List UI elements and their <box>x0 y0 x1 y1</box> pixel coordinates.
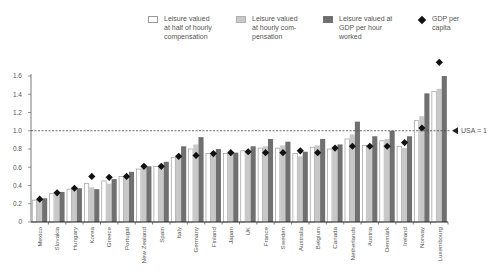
bar <box>263 146 268 222</box>
bar <box>241 151 245 222</box>
bar <box>206 154 210 222</box>
bar <box>285 142 290 222</box>
x-category-label: Luxembourg <box>436 226 443 261</box>
y-tick-label: 0.6 <box>13 164 22 171</box>
bar <box>432 92 436 222</box>
bar <box>415 121 419 222</box>
x-category-label: Italy <box>175 226 182 238</box>
bar <box>315 145 320 222</box>
bar <box>337 144 342 222</box>
bar <box>320 139 325 222</box>
x-category-label: Greece <box>105 226 112 247</box>
bar <box>345 139 349 222</box>
bar <box>164 162 169 222</box>
bar <box>50 194 54 222</box>
bar <box>54 195 59 222</box>
bar <box>424 93 429 222</box>
bar <box>397 146 401 222</box>
x-category-label: Ireland <box>401 226 408 245</box>
bar <box>189 149 193 222</box>
bar <box>380 141 384 222</box>
bar <box>124 175 129 222</box>
bar <box>223 154 227 222</box>
bar <box>141 167 146 222</box>
bar <box>72 190 77 222</box>
bar <box>211 152 216 222</box>
bar-series <box>32 76 447 222</box>
x-category-label: Belgium <box>314 227 321 249</box>
x-category-label: Korea <box>88 226 95 243</box>
x-category-label: Australia <box>297 226 304 251</box>
bar <box>276 148 280 222</box>
y-tick-label: 0 <box>18 218 22 225</box>
bar <box>372 136 377 222</box>
bar <box>67 189 71 222</box>
bar <box>385 139 390 222</box>
bar <box>159 165 164 222</box>
bar <box>89 187 94 222</box>
bar <box>112 179 117 222</box>
bar <box>328 149 332 222</box>
y-tick-label: 0.4 <box>13 182 22 189</box>
x-category-label: Austria <box>366 226 373 246</box>
x-category-label: Portugal <box>123 227 130 250</box>
x-category-label: Mexico <box>36 226 43 246</box>
x-category-label: Finland <box>210 226 217 247</box>
y-tick-label: 1.6 <box>13 72 22 79</box>
bar <box>228 153 233 222</box>
bar <box>216 149 221 222</box>
bar <box>154 166 158 222</box>
bar <box>107 184 112 222</box>
arrow-left-icon <box>452 127 458 134</box>
x-category-label: Sweden <box>279 226 286 249</box>
y-tick-label: 1.0 <box>13 127 22 134</box>
bar <box>246 150 251 222</box>
bar <box>137 169 141 222</box>
y-tick-label: 1.2 <box>13 109 22 116</box>
bar <box>84 184 88 222</box>
bar <box>419 116 424 222</box>
x-category-label: Canada <box>331 226 338 248</box>
diamond-icon <box>88 173 95 180</box>
bar <box>298 156 303 222</box>
x-category-label: Japan <box>227 226 234 243</box>
bar <box>332 147 337 222</box>
bar <box>310 147 314 222</box>
x-axis: MexicoSlovakiaHungaryKoreaGreecePortugal… <box>31 222 448 263</box>
bar <box>355 122 360 222</box>
y-axis: 00.20.40.60.81.01.21.41.6 <box>13 72 31 225</box>
bar <box>181 146 186 222</box>
bar <box>198 137 203 222</box>
bar-chart: 00.20.40.60.81.01.21.41.6 USA = 1 Mexico… <box>0 0 499 278</box>
bar <box>32 200 36 222</box>
bar <box>77 188 82 222</box>
bar <box>362 145 366 222</box>
bar <box>176 156 181 222</box>
bar <box>280 145 285 222</box>
bar <box>407 136 412 222</box>
y-tick-label: 1.4 <box>13 91 22 98</box>
bar <box>268 139 273 222</box>
bar <box>129 172 134 222</box>
bar <box>437 89 442 222</box>
bar <box>258 148 262 222</box>
y-tick-label: 0.2 <box>13 200 22 207</box>
bar <box>402 148 407 222</box>
x-category-label: Germany <box>192 226 199 252</box>
bar <box>233 153 238 222</box>
x-category-label: Netherlands <box>349 227 356 260</box>
bar <box>390 131 395 222</box>
x-category-label: Denmark <box>383 226 390 252</box>
usa-reference-label: USA = 1 <box>461 127 487 134</box>
bar <box>94 189 99 222</box>
x-category-label: UK <box>244 226 251 235</box>
x-category-label: Spain <box>158 226 165 242</box>
x-category-label: New Zealand <box>140 226 147 263</box>
bar <box>303 152 308 222</box>
bar <box>251 146 256 222</box>
bar <box>119 176 123 222</box>
y-tick-label: 0.8 <box>13 145 22 152</box>
bar <box>293 154 297 222</box>
x-category-label: France <box>262 226 269 246</box>
bar <box>171 157 175 222</box>
